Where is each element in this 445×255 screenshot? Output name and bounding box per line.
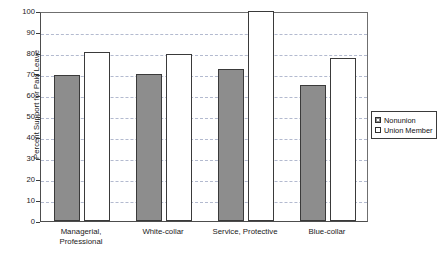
y-axis-tick-label: 40 <box>10 133 35 142</box>
bar-nonunion <box>54 75 80 221</box>
y-axis-tick-label: 70 <box>10 70 35 79</box>
bar-union-member <box>248 11 274 221</box>
legend-swatch-union-member <box>375 127 381 133</box>
chart-legend: Nonunion Union Member <box>371 111 437 139</box>
y-axis-tick-label: 10 <box>10 196 35 205</box>
bar-union-member <box>84 52 110 221</box>
legend-swatch-nonunion <box>375 117 381 123</box>
y-axis-tick-label: 50 <box>10 112 35 121</box>
x-axis-tick-label: Managerial, Professional <box>34 227 128 247</box>
bar-nonunion <box>300 85 326 221</box>
x-axis-tick-label: Blue-collar <box>280 227 374 237</box>
legend-item-nonunion: Nonunion <box>375 115 432 125</box>
y-axis-tick-label: 80 <box>10 49 35 58</box>
x-axis-tick-label: Service, Protective <box>198 227 292 237</box>
bar-nonunion <box>218 69 244 221</box>
x-axis-tick-label: White-collar <box>116 227 210 237</box>
bar-chart-figure: Percent Support for Paid Leave 010203040… <box>0 0 445 255</box>
y-axis-tick-mark <box>36 222 40 223</box>
gridline <box>41 34 367 35</box>
y-axis-tick-label: 100 <box>10 7 35 16</box>
legend-label-nonunion: Nonunion <box>384 116 416 125</box>
bar-union-member <box>330 58 356 221</box>
plot-inner <box>41 13 367 221</box>
y-axis-tick-label: 0 <box>10 217 35 226</box>
y-axis-tick-label: 30 <box>10 154 35 163</box>
y-axis-tick-label: 60 <box>10 91 35 100</box>
plot-area <box>40 12 368 222</box>
legend-label-union-member: Union Member <box>384 126 432 135</box>
bar-union-member <box>166 54 192 221</box>
legend-item-union-member: Union Member <box>375 125 432 135</box>
bar-nonunion <box>136 74 162 221</box>
y-axis-tick-label: 90 <box>10 28 35 37</box>
y-axis-tick-label: 20 <box>10 175 35 184</box>
